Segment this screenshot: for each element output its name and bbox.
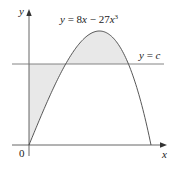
- line-label: y = c: [138, 49, 161, 61]
- x-axis-label: x: [161, 148, 167, 160]
- y-axis-arrow-icon: [26, 9, 31, 16]
- curve-label: y = 8x − 27x3: [59, 13, 119, 25]
- shaded-region-top: [66, 31, 129, 64]
- origin-label: 0: [19, 147, 25, 159]
- area-diagram: y = 8x − 27x3 y = c y x 0: [0, 0, 177, 170]
- x-axis-arrow-icon: [160, 142, 167, 147]
- y-axis-label: y: [18, 5, 24, 17]
- shaded-region-left: [29, 64, 66, 145]
